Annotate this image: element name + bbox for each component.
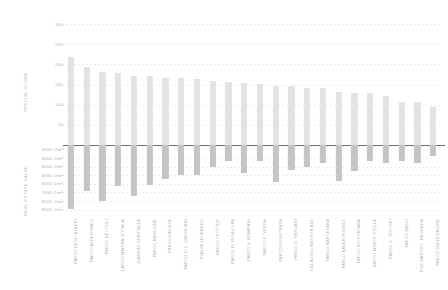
bar-real-estate-value[interactable] <box>115 145 121 186</box>
bar-real-estate-value[interactable] <box>84 145 90 191</box>
category-label: PIAZZA LEONARDO <box>189 219 205 281</box>
category-label: LARGO MARINAI D'ITALIA <box>110 219 126 281</box>
category-label-text: PARCO R. VERGA <box>261 219 266 255</box>
bar-column[interactable] <box>173 12 189 218</box>
bar-column[interactable] <box>189 12 205 218</box>
bar-real-estate-value[interactable] <box>241 145 247 173</box>
bar-column[interactable] <box>331 12 347 218</box>
bar-special-score[interactable] <box>351 93 357 145</box>
bar-real-estate-value[interactable] <box>367 145 373 161</box>
bar-special-score[interactable] <box>399 102 405 145</box>
bar-column[interactable] <box>63 12 79 218</box>
bar-column[interactable] <box>268 12 284 218</box>
bar-real-estate-value[interactable] <box>304 145 310 167</box>
bar-special-score[interactable] <box>383 96 389 145</box>
bar-column[interactable] <box>362 12 378 218</box>
category-label: VILLAGGIO INDUSTRIALE <box>299 219 315 281</box>
category-label: PARCO BASSI <box>394 219 410 281</box>
category-label-text: PARCO RAVIZZA <box>167 219 172 253</box>
bar-column[interactable] <box>284 12 300 218</box>
category-label-text: PARCO G. TESTORI <box>387 219 392 259</box>
bar-column[interactable] <box>347 12 363 218</box>
bar-real-estate-value[interactable] <box>257 145 263 161</box>
tick-label-upper: 300 <box>55 22 63 27</box>
category-label: PARCO BADEN POWELL <box>331 219 347 281</box>
tick-label-lower: 7000 €/m² <box>41 190 63 195</box>
bar-column[interactable] <box>425 12 441 218</box>
bar-special-score[interactable] <box>430 107 436 145</box>
bar-special-score[interactable] <box>84 67 90 145</box>
bar-special-score[interactable] <box>68 57 74 145</box>
bar-special-score[interactable] <box>225 82 231 145</box>
bar-column[interactable] <box>205 12 221 218</box>
bar-column[interactable] <box>236 12 252 218</box>
tick-label-lower: 3000 €/m² <box>41 156 63 161</box>
bar-real-estate-value[interactable] <box>99 145 105 201</box>
category-label: PARCO G. TESTORI <box>378 219 394 281</box>
category-label: PARCO RESISTENZA <box>268 219 284 281</box>
bar-special-score[interactable] <box>414 102 420 145</box>
bar-column[interactable] <box>142 12 158 218</box>
category-label: PARCO V. BOMPIANI <box>236 219 252 281</box>
bar-column[interactable] <box>158 12 174 218</box>
bar-special-score[interactable] <box>210 81 216 145</box>
bar-column[interactable] <box>95 12 111 218</box>
bar-real-estate-value[interactable] <box>162 145 168 179</box>
category-label: GIARDINI GUASTALLA <box>126 219 142 281</box>
bar-column[interactable] <box>126 12 142 218</box>
bar-special-score[interactable] <box>147 76 153 145</box>
bar-real-estate-value[interactable] <box>194 145 200 175</box>
tick-label-lower: 9000 €/m² <box>41 207 63 212</box>
bar-column[interactable] <box>315 12 331 218</box>
bar-special-score[interactable] <box>162 78 168 145</box>
bar-real-estate-value[interactable] <box>336 145 342 181</box>
bar-real-estate-value[interactable] <box>399 145 405 161</box>
bar-real-estate-value[interactable] <box>414 145 420 163</box>
bar-real-estate-value[interactable] <box>147 145 153 185</box>
category-label: PARCO TROTTER <box>205 219 221 281</box>
bar-special-score[interactable] <box>288 86 294 145</box>
category-label: PARCO D. L. CAVIGLIANI <box>173 219 189 281</box>
bar-special-score[interactable] <box>273 86 279 145</box>
bar-column[interactable] <box>410 12 426 218</box>
category-label: PARCO MARTESANA <box>315 219 331 281</box>
bar-column[interactable] <box>394 12 410 218</box>
bar-special-score[interactable] <box>194 79 200 145</box>
bar-real-estate-value[interactable] <box>210 145 216 167</box>
bar-real-estate-value[interactable] <box>68 145 74 209</box>
bar-real-estate-value[interactable] <box>131 145 137 196</box>
bar-column[interactable] <box>79 12 95 218</box>
bar-special-score[interactable] <box>304 88 310 145</box>
bar-column[interactable] <box>252 12 268 218</box>
bar-real-estate-value[interactable] <box>430 145 436 156</box>
bar-column[interactable] <box>110 12 126 218</box>
category-label: PARCO BASILICHE <box>142 219 158 281</box>
bar-special-score[interactable] <box>99 72 105 145</box>
bar-series-layer <box>63 12 441 218</box>
category-label-text: LARGO MARINAI D'ITALIA <box>120 219 125 271</box>
category-label-text: PARCO DI VILLA LUPA <box>230 219 235 264</box>
category-axis: PARCO DEGLI ALBERIPARCO ALFA ROMEOPARCO … <box>63 219 441 281</box>
bar-special-score[interactable] <box>178 78 184 145</box>
bar-column[interactable] <box>378 12 394 218</box>
category-label-text: PARCO G. VERGANI <box>293 219 298 260</box>
bar-special-score[interactable] <box>336 92 342 145</box>
bar-special-score[interactable] <box>320 88 326 145</box>
bar-real-estate-value[interactable] <box>273 145 279 182</box>
bar-real-estate-value[interactable] <box>320 145 326 163</box>
category-label-text: PARCO RESISTENZA <box>277 219 282 262</box>
tick-label-lower: 5000 €/m² <box>41 173 63 178</box>
bar-special-score[interactable] <box>367 93 373 145</box>
bar-column[interactable] <box>221 12 237 218</box>
bar-real-estate-value[interactable] <box>383 145 389 163</box>
bar-real-estate-value[interactable] <box>178 145 184 175</box>
bar-special-score[interactable] <box>241 83 247 145</box>
bar-column[interactable] <box>299 12 315 218</box>
bar-real-estate-value[interactable] <box>225 145 231 161</box>
bar-special-score[interactable] <box>131 76 137 145</box>
bar-special-score[interactable] <box>257 84 263 145</box>
bar-special-score[interactable] <box>115 73 121 145</box>
upper-axis-title: SPECIAL SCORE <box>23 72 28 112</box>
bar-real-estate-value[interactable] <box>351 145 357 171</box>
bar-real-estate-value[interactable] <box>288 145 294 170</box>
